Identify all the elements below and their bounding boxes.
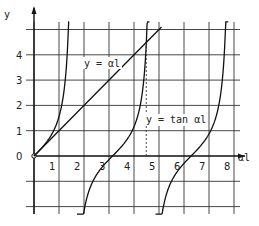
tan-intersection-chart: 123456781234 y αl 0 y = αl y = tan αl <box>0 0 259 226</box>
x-tick-label: 3 <box>99 161 105 172</box>
x-tick-label: 4 <box>124 161 130 172</box>
y-axis-arrow-icon <box>32 6 37 14</box>
x-tick-label: 5 <box>149 161 155 172</box>
origin-label: 0 <box>16 151 22 162</box>
y-tick-label: 2 <box>16 100 22 111</box>
line-label: y = αl <box>84 58 120 69</box>
y-axis-label: y <box>4 9 10 20</box>
x-tick-label: 7 <box>199 161 205 172</box>
y-tick-label: 4 <box>16 50 22 61</box>
x-tick-label: 2 <box>74 161 80 172</box>
tan-branch <box>34 22 69 156</box>
axes <box>32 6 246 214</box>
tan-label: y = tan αl <box>146 114 206 125</box>
x-tick-label: 1 <box>49 161 55 172</box>
x-axis-label: αl <box>238 152 250 163</box>
y-tick-label: 3 <box>16 75 22 86</box>
x-tick-label: 6 <box>174 161 180 172</box>
tick-labels: 123456781234 <box>16 50 230 172</box>
x-tick-label: 8 <box>224 161 230 172</box>
y-tick-label: 1 <box>16 126 22 137</box>
